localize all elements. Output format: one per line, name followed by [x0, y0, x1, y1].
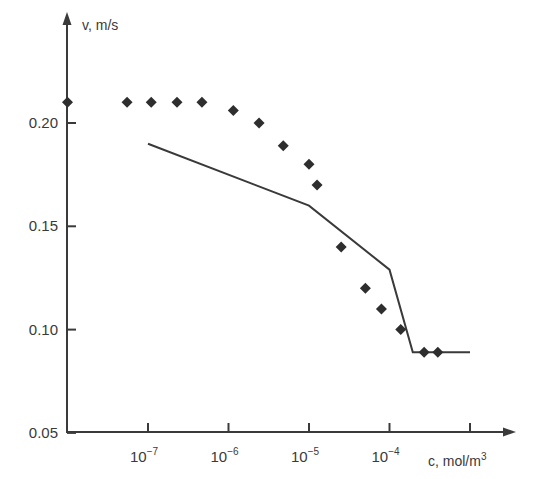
y-axis-title: v, m/s	[82, 17, 118, 33]
x-axis-title: c, mol/m3	[428, 451, 487, 469]
data-point-diamond-icon	[278, 140, 289, 151]
data-point-diamond-icon	[304, 159, 315, 170]
data-point-diamond-icon	[196, 97, 207, 108]
chart-area: 0.050.100.150.20 10−710−610−510−4 v, m/s…	[0, 0, 537, 479]
data-point-diamond-icon	[228, 105, 239, 116]
data-point-diamond-icon	[62, 97, 73, 108]
x-ticks: 10−710−610−510−4	[130, 423, 470, 465]
x-axis-title-sup: 3	[481, 451, 487, 462]
x-axis-title-main: c, mol/m	[428, 453, 481, 469]
data-point-diamond-icon	[312, 179, 323, 190]
data-point-diamond-icon	[376, 303, 387, 314]
data-point-diamond-icon	[254, 118, 265, 129]
calculated-curve-line	[148, 144, 470, 353]
y-axis-arrow-icon	[63, 12, 72, 25]
y-tick-label: 0.20	[29, 114, 58, 131]
data-point-diamond-icon	[171, 97, 182, 108]
y-ticks: 0.050.100.150.20	[29, 114, 76, 441]
x-tick-label: 10−5	[291, 446, 320, 465]
data-point-diamond-icon	[419, 347, 430, 358]
y-tick-label: 0.10	[29, 321, 58, 338]
x-tick-label: 10−4	[371, 446, 400, 465]
data-point-diamond-icon	[432, 347, 443, 358]
x-tick-label: 10−6	[210, 446, 239, 465]
x-tick-label: 10−7	[130, 446, 159, 465]
y-tick-label: 0.05	[29, 424, 58, 441]
data-point-diamond-icon	[122, 97, 133, 108]
x-axis-arrow-icon	[503, 428, 516, 437]
data-point-diamond-icon	[146, 97, 157, 108]
data-point-diamond-icon	[336, 241, 347, 252]
y-tick-label: 0.15	[29, 217, 58, 234]
axes	[63, 12, 517, 437]
experimental-points	[62, 97, 443, 358]
data-point-diamond-icon	[360, 283, 371, 294]
